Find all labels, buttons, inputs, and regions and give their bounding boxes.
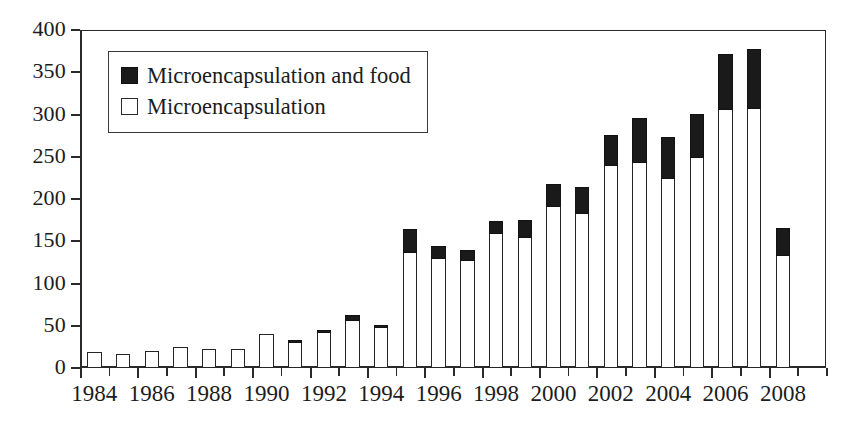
x-axis-major-tick-mark [769, 368, 771, 378]
y-axis-tick-mark [71, 114, 80, 116]
bar-segment-microencapsulation-and-food [661, 137, 675, 178]
bar-1997 [460, 249, 474, 368]
bar-1994 [374, 323, 388, 368]
bar-2005 [690, 112, 704, 368]
bar-1999 [518, 218, 532, 368]
bar-1984 [87, 352, 101, 368]
x-axis-tick-mark [453, 368, 455, 376]
bar-segment-microencapsulation [259, 334, 273, 368]
bar-2000 [546, 182, 560, 368]
bar-segment-microencapsulation [403, 251, 417, 368]
bar-segment-microencapsulation [661, 177, 675, 368]
legend-item-label: Microencapsulation and food [147, 63, 411, 89]
bar-1989 [231, 349, 245, 368]
x-axis-tick-mark [281, 368, 283, 376]
y-axis-tick-label: 0 [55, 353, 66, 381]
bar-segment-microencapsulation-and-food [518, 220, 532, 238]
bar-segment-microencapsulation [460, 259, 474, 368]
bar-segment-microencapsulation [604, 164, 618, 368]
y-axis-tick-mark [71, 71, 80, 73]
bar-segment-microencapsulation [747, 108, 761, 368]
bar-segment-microencapsulation [575, 213, 589, 368]
x-axis-tick-mark [740, 368, 742, 376]
bar-2001 [575, 185, 589, 368]
bar-segment-microencapsulation-and-food [690, 114, 704, 159]
x-axis-tick-label: 1990 [244, 379, 290, 409]
chart-legend: Microencapsulation and food Microencapsu… [108, 51, 428, 133]
bar-segment-microencapsulation [718, 109, 732, 368]
bar-segment-microencapsulation [202, 349, 216, 368]
x-axis-tick-mark [166, 368, 168, 376]
x-axis-tick-label: 1998 [473, 379, 519, 409]
bar-segment-microencapsulation-and-food [747, 49, 761, 110]
y-axis-tick-label: 400 [32, 15, 66, 43]
x-axis-major-tick-mark [80, 368, 82, 378]
bar-segment-microencapsulation-and-food [431, 246, 445, 259]
bar-segment-microencapsulation-and-food [604, 135, 618, 166]
bar-segment-microencapsulation-and-food [718, 54, 732, 110]
x-axis-major-tick-mark [195, 368, 197, 378]
bar-segment-microencapsulation-and-food [489, 221, 503, 234]
x-axis-tick-mark [683, 368, 685, 376]
x-axis-major-tick-mark [137, 368, 139, 378]
bar-1998 [489, 219, 503, 368]
bar-segment-microencapsulation-and-food [632, 118, 646, 163]
bar-1990 [259, 334, 273, 368]
y-axis-tick-mark [71, 283, 80, 285]
x-axis-tick-label: 1988 [186, 379, 232, 409]
y-axis-tick-label: 150 [32, 226, 66, 254]
bar-1986 [145, 351, 159, 368]
bar-segment-microencapsulation-and-food [345, 315, 359, 322]
x-axis-tick-label: 2000 [530, 379, 576, 409]
x-axis-tick-label: 2002 [588, 379, 634, 409]
x-axis-tick-label: 1986 [129, 379, 175, 409]
y-axis-tick-mark [71, 198, 80, 200]
bar-segment-microencapsulation [173, 347, 187, 368]
x-axis-tick-mark [396, 368, 398, 376]
bar-1987 [173, 347, 187, 368]
y-axis-tick-label: 200 [32, 184, 66, 212]
legend-item-label: Microencapsulation [147, 94, 326, 120]
bar-segment-microencapsulation [546, 205, 560, 368]
y-axis: 050100150200250300350400 [0, 30, 80, 368]
bar-2008 [776, 226, 790, 368]
y-axis-tick-label: 350 [32, 57, 66, 85]
x-axis-tick-mark [510, 368, 512, 376]
bar-segment-microencapsulation-and-food [288, 340, 302, 343]
x-axis-tick-label: 1992 [301, 379, 347, 409]
hollow-square-icon [121, 98, 138, 115]
x-axis-tick-mark [625, 368, 627, 376]
x-axis-major-tick-mark [252, 368, 254, 378]
bar-segment-microencapsulation [489, 232, 503, 368]
y-axis-tick-mark [71, 156, 80, 158]
bar-segment-microencapsulation [288, 342, 302, 368]
x-axis-major-tick-mark [596, 368, 598, 378]
bar-segment-microencapsulation-and-food [403, 229, 417, 253]
bar-segment-microencapsulation [345, 320, 359, 368]
y-axis-tick-label: 300 [32, 100, 66, 128]
bar-segment-microencapsulation [776, 254, 790, 368]
x-axis-tick-label: 1994 [358, 379, 404, 409]
bar-2004 [661, 136, 675, 368]
x-axis-tick-label: 2006 [703, 379, 749, 409]
y-axis-tick-mark [71, 325, 80, 327]
bar-2003 [632, 116, 646, 368]
bar-segment-microencapsulation [145, 351, 159, 368]
bar-1992 [317, 328, 331, 368]
x-axis-tick-label: 2004 [645, 379, 691, 409]
bar-1993 [345, 313, 359, 368]
legend-item: Microencapsulation and food [121, 60, 411, 91]
bar-1996 [431, 245, 445, 368]
bar-segment-microencapsulation-and-food [460, 250, 474, 260]
x-axis-major-tick-mark [539, 368, 541, 378]
y-axis-tick-label: 250 [32, 142, 66, 170]
y-axis-tick-mark [71, 29, 80, 31]
x-axis-major-tick-mark [711, 368, 713, 378]
x-axis-major-tick-mark [424, 368, 426, 378]
bar-1991 [288, 338, 302, 368]
bar-segment-microencapsulation [87, 352, 101, 368]
x-axis-tick-mark [826, 368, 828, 376]
x-axis-tick-mark [338, 368, 340, 376]
x-axis-major-tick-mark [482, 368, 484, 378]
bar-segment-microencapsulation [518, 236, 532, 368]
